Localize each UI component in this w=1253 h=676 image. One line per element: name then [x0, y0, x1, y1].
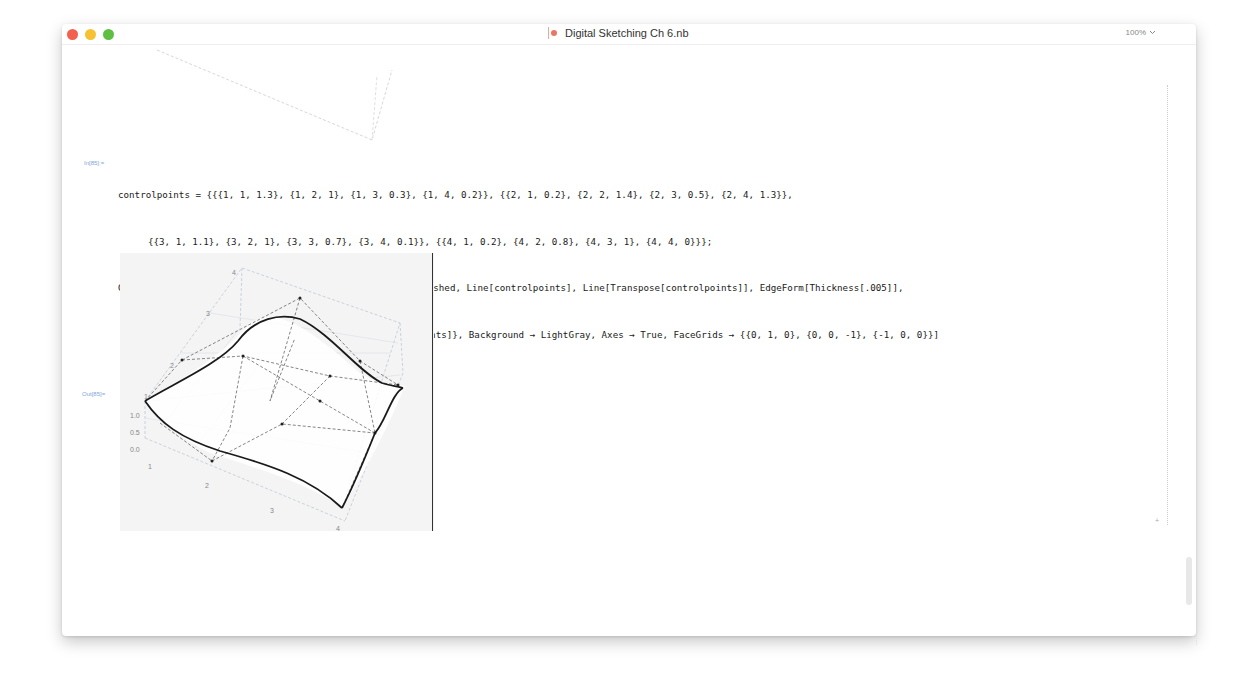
svg-text:3: 3	[206, 310, 210, 317]
input-cell-label: In[85]:=	[84, 160, 104, 166]
minimize-window-button[interactable]	[85, 29, 96, 40]
notebook-document-icon	[548, 27, 559, 39]
zoom-level-value: 100%	[1126, 28, 1146, 37]
vertical-scrollbar-thumb[interactable]	[1186, 557, 1192, 605]
plot-3d-graphic: 1 2 3 4 1.0 0.5 0.0 1 2 3 4	[120, 253, 434, 531]
window-title-group: Digital Sketching Ch 6.nb	[548, 27, 689, 39]
zoom-level-dropdown[interactable]: 100%	[1126, 28, 1156, 37]
window-title: Digital Sketching Ch 6.nb	[565, 27, 689, 39]
cell-group-bracket[interactable]	[1167, 85, 1169, 525]
chevron-down-icon	[1149, 30, 1156, 35]
svg-text:1: 1	[148, 463, 152, 470]
title-bar[interactable]: Digital Sketching Ch 6.nb 100%	[62, 24, 1196, 45]
svg-text:0.0: 0.0	[130, 446, 140, 453]
svg-text:4: 4	[232, 269, 236, 276]
bspline-surface-plot[interactable]: 1 2 3 4 1.0 0.5 0.0 1 2 3 4	[120, 253, 434, 531]
cell-insertion-marker[interactable]: +	[1155, 517, 1159, 524]
output-cell-bracket[interactable]	[432, 253, 433, 531]
code-line-2: {{3, 1, 1.1}, {3, 2, 1}, {3, 3, 0.7}, {3…	[118, 234, 939, 250]
svg-text:2: 2	[205, 482, 209, 489]
output-cell-label: Out[85]=	[82, 391, 105, 397]
svg-text:1.0: 1.0	[130, 412, 140, 419]
maximize-window-button[interactable]	[103, 29, 114, 40]
svg-text:3: 3	[270, 507, 274, 514]
close-window-button[interactable]	[67, 29, 78, 40]
code-line-1: controlpoints = {{{1, 1, 1.3}, {1, 2, 1}…	[118, 187, 939, 203]
svg-text:0.5: 0.5	[130, 429, 140, 436]
y-tick-1: 1	[144, 393, 148, 400]
svg-text:2: 2	[170, 362, 174, 369]
notebook-edge-bracket	[1196, 85, 1198, 645]
notebook-window: Digital Sketching Ch 6.nb 100% In[85]:= …	[62, 24, 1196, 636]
svg-text:4: 4	[336, 525, 340, 531]
notebook-content[interactable]: In[85]:= controlpoints = {{{1, 1, 1.3}, …	[62, 45, 1172, 635]
ghost-graphic-fragment	[62, 45, 462, 155]
